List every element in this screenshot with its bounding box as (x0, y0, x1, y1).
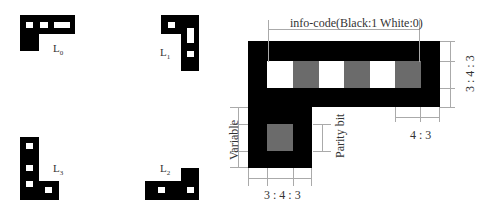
variable-label: Variable (227, 120, 242, 160)
label-l3: L3 (53, 162, 63, 177)
label-l1: L1 (160, 46, 170, 61)
cell-ratio-label: 4 : 3 (410, 128, 431, 143)
right-ratio-label: 3 : 4 : 3 (463, 55, 478, 92)
bottom-ratio-label: 3 : 4 : 3 (264, 188, 301, 203)
info-code-label: info-code(Black:1 White:0) (290, 16, 423, 31)
label-l2: L2 (160, 162, 170, 177)
label-l0: L0 (53, 42, 63, 57)
parity-bit-label: Parity bit (333, 114, 348, 158)
diagram: L0 L1 L3 L2 i (0, 0, 495, 219)
